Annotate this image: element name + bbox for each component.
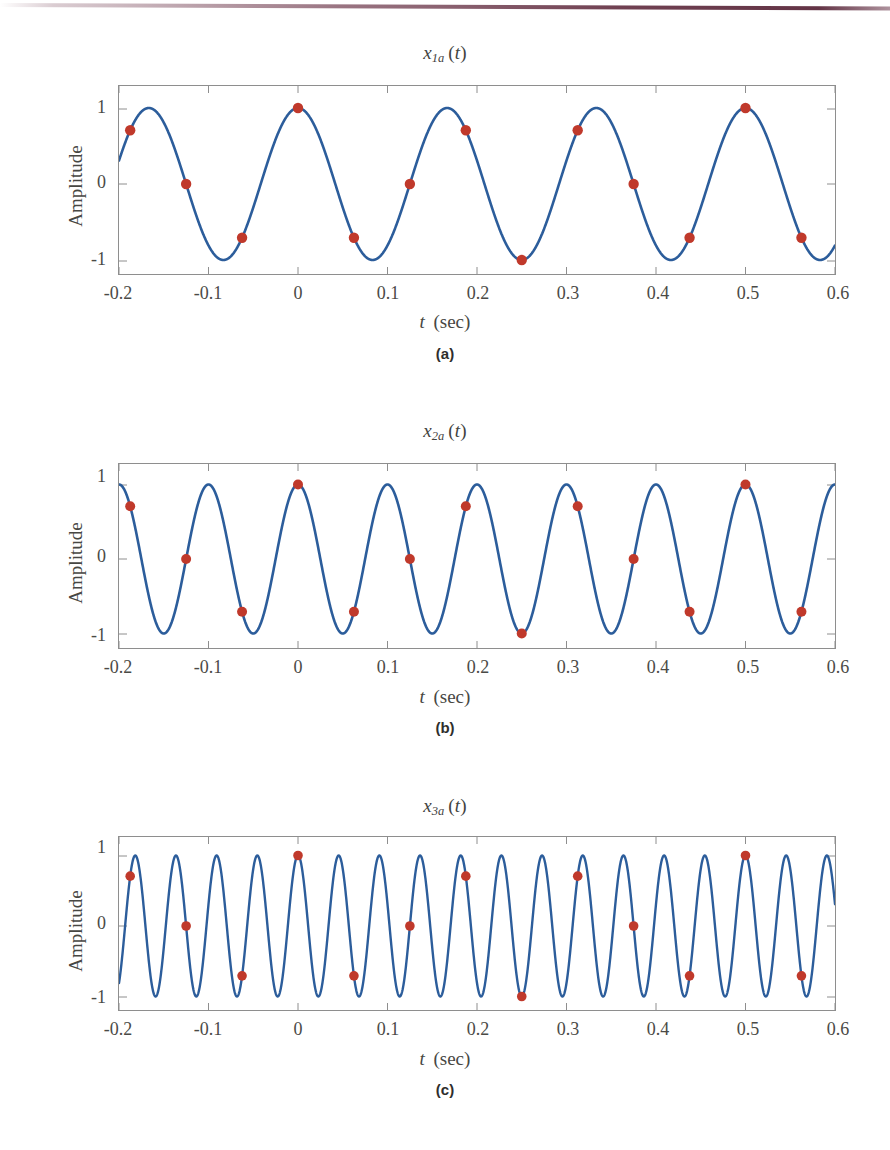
panel-b-plot-area <box>118 463 836 649</box>
sample-point <box>796 233 806 243</box>
sample-point <box>741 480 751 490</box>
sample-point <box>517 992 527 1002</box>
panel-b-yticks-marks <box>119 485 835 634</box>
panel-a-xlabel-unit: sec <box>440 311 464 332</box>
sample-point <box>405 554 415 564</box>
panel-b-curve <box>119 485 835 634</box>
panel-c-xtick-3: 0.1 <box>353 1019 423 1040</box>
panel-a-xtick-0: -0.2 <box>83 283 153 304</box>
panel-b-sample-points <box>125 480 806 639</box>
panel-b-xlabel: t (sec) <box>0 686 890 708</box>
panel-c-ytick-0: 0 <box>62 913 106 934</box>
panel-a-xtick-2: 0 <box>263 283 333 304</box>
sample-point <box>181 179 191 189</box>
panel-a-caption: (a) <box>0 345 890 362</box>
sample-point <box>573 501 583 511</box>
sample-point <box>405 179 415 189</box>
panel-b-xtick-2: 0 <box>263 657 333 678</box>
panel-c-ytick-neg1: -1 <box>56 987 106 1008</box>
sample-point <box>629 554 639 564</box>
sample-point <box>628 179 638 189</box>
panel-a-xtick-5: 0.3 <box>533 283 603 304</box>
sample-point <box>461 125 471 135</box>
panel-c-xtick-4: 0.2 <box>443 1019 513 1040</box>
sample-point <box>517 629 527 639</box>
panel-b-xticks-marks <box>119 464 835 648</box>
panel-c-title-sub: 3a <box>432 804 445 818</box>
figure-page: x1a (t) Amplitude 1 0 -1 -0.2 -0 <box>0 0 890 1150</box>
panel-c-curve <box>119 856 835 997</box>
sample-point <box>796 607 806 617</box>
panel-c-svg <box>119 837 835 1010</box>
panel-c-xtick-5: 0.3 <box>533 1019 603 1040</box>
panel-c-caption: (c) <box>0 1081 890 1098</box>
panel-b-xtick-1: -0.1 <box>173 657 243 678</box>
sample-point <box>349 607 359 617</box>
sample-point <box>629 921 639 931</box>
panel-a-xticks-marks <box>119 86 835 274</box>
sample-point <box>684 233 694 243</box>
sample-point <box>461 501 471 511</box>
panel-b-ytick-neg1: -1 <box>56 625 106 646</box>
panel-b-xtick-6: 0.4 <box>623 657 693 678</box>
panel-c-title: x3a (t) <box>0 795 890 819</box>
sample-point <box>237 233 247 243</box>
panel-a-xtick-6: 0.4 <box>623 283 693 304</box>
sample-point <box>517 255 527 265</box>
page-top-rule <box>0 3 890 10</box>
sample-point <box>573 871 583 881</box>
panel-c-plot-area <box>118 836 836 1011</box>
sample-point <box>237 971 247 981</box>
sample-point <box>125 501 135 511</box>
panel-a-plot-area <box>118 85 836 275</box>
panel-c-xtick-6: 0.4 <box>623 1019 693 1040</box>
panel-a-title-sub: 1a <box>432 51 445 65</box>
sample-point <box>125 871 135 881</box>
panel-b-svg <box>119 464 835 648</box>
panel-c-xlabel: t (sec) <box>0 1048 890 1070</box>
panel-b-title: x2a (t) <box>0 420 890 444</box>
sample-point <box>572 125 582 135</box>
panel-b-ytick-0: 0 <box>62 546 106 567</box>
sample-point <box>125 125 135 135</box>
panel-a-xtick-7: 0.5 <box>713 283 783 304</box>
sample-point <box>181 554 191 564</box>
panel-a-xtick-4: 0.2 <box>443 283 513 304</box>
sample-point <box>181 921 191 931</box>
panel-a-title: x1a (t) <box>0 42 890 66</box>
panel-c-xtick-1: -0.1 <box>173 1019 243 1040</box>
panel-a-curve <box>119 108 835 260</box>
sample-point <box>740 103 750 113</box>
panel-a-ytick-neg1: -1 <box>56 249 106 270</box>
sample-point <box>741 851 751 861</box>
panel-b-ytick-1: 1 <box>62 466 106 487</box>
panel-c-xtick-7: 0.5 <box>713 1019 783 1040</box>
panel-b-xlabel-unit: sec <box>440 686 464 707</box>
panel-c-xtick-8: 0.6 <box>803 1019 873 1040</box>
panel-c-xtick-2: 0 <box>263 1019 333 1040</box>
panel-b-xtick-8: 0.6 <box>803 657 873 678</box>
sample-point <box>349 233 359 243</box>
sample-point <box>293 851 303 861</box>
panel-c-ytick-1: 1 <box>62 837 106 858</box>
sample-point <box>405 921 415 931</box>
panel-b-xtick-5: 0.3 <box>533 657 603 678</box>
sample-point <box>685 607 695 617</box>
panel-b-xtick-3: 0.1 <box>353 657 423 678</box>
panel-b-caption: (b) <box>0 719 890 736</box>
sample-point <box>685 971 695 981</box>
sample-point <box>349 971 359 981</box>
panel-a-xtick-3: 0.1 <box>353 283 423 304</box>
panel-a-xtick-1: -0.1 <box>173 283 243 304</box>
sample-point <box>293 103 303 113</box>
panel-a-svg <box>119 86 835 274</box>
panel-c-xtick-0: -0.2 <box>83 1019 153 1040</box>
sample-point <box>237 607 247 617</box>
sample-point <box>293 480 303 490</box>
sample-point <box>461 871 471 881</box>
panel-b-xtick-0: -0.2 <box>83 657 153 678</box>
panel-b-xtick-7: 0.5 <box>713 657 783 678</box>
panel-a-ytick-0: 0 <box>62 172 106 193</box>
panel-b-xtick-4: 0.2 <box>443 657 513 678</box>
panel-c-xlabel-unit: sec <box>440 1048 464 1069</box>
